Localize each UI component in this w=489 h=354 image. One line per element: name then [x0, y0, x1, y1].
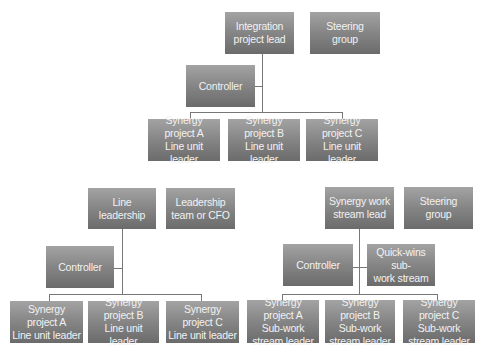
synergy-project-c-box: Synergy project C Sub-work stream leader	[403, 300, 475, 343]
controller-box: Controller	[283, 244, 353, 286]
connector	[353, 267, 367, 268]
connector	[49, 294, 201, 295]
connector	[359, 229, 360, 295]
line-leadership-box: Line leadership	[88, 188, 156, 229]
synergy-project-b-box: Synergy project B Line unit leader	[228, 119, 300, 161]
synergy-project-c-box: Synergy project C Line unit leader	[306, 119, 378, 161]
synergy-work-stream-lead-box: Synergy work stream lead	[325, 187, 394, 229]
synergy-project-b-box: Synergy project B Sub-work stream leader	[325, 300, 395, 343]
synergy-project-a-box: Synergy project A Sub-work stream leader	[247, 300, 319, 343]
connector	[190, 112, 342, 113]
connector	[122, 229, 123, 295]
connector	[255, 86, 263, 87]
controller-box: Controller	[46, 246, 114, 288]
synergy-project-a-box: Synergy project A Line unit leader	[148, 119, 220, 161]
steering-group-box: Steering group	[310, 12, 380, 54]
quick-wins-box: Quick-wins sub- work stream	[367, 244, 435, 286]
steering-group-box: Steering group	[404, 187, 473, 229]
leadership-team-box: Leadership team or CFO	[166, 188, 235, 229]
synergy-project-a-box: Synergy project A Line unit leader	[10, 301, 83, 343]
connector	[262, 54, 263, 113]
connector	[114, 268, 123, 269]
synergy-project-b-box: Synergy project B Line unit leader	[88, 301, 159, 343]
integration-project-lead-box: Integration project lead	[225, 12, 294, 54]
controller-box: Controller	[186, 65, 255, 107]
synergy-project-c-box: Synergy project C Line unit leader	[166, 301, 239, 343]
connector	[49, 294, 50, 301]
connector	[201, 294, 202, 301]
